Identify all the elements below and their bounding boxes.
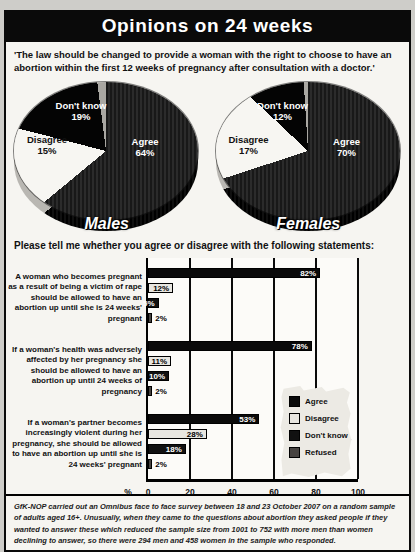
bar-agree: 82% xyxy=(148,268,320,278)
legend-item-disagree: Disagree xyxy=(289,413,352,424)
legend-item-agree: Agree xyxy=(289,396,352,407)
bar-value-label: 5% xyxy=(143,299,155,308)
bar-chart-plot: Agree Disagree Don't know Refused 82%12%… xyxy=(146,258,358,482)
gridline xyxy=(357,258,359,479)
x-axis-unit-label: % xyxy=(118,487,138,497)
bar-value-label: 53% xyxy=(239,415,255,424)
tick-label: 0 xyxy=(138,487,158,497)
legend-label: Agree xyxy=(305,397,328,406)
legend-swatch-refused xyxy=(289,447,300,458)
pie-title-males: Males xyxy=(6,215,208,233)
males-pie-chart: Don't know19% Disagree15% Agree64% Males xyxy=(6,78,208,235)
bar-value-label: 10% xyxy=(149,372,165,381)
legend-swatch-dont-know xyxy=(289,430,300,441)
pie-title-females: Females xyxy=(208,215,410,233)
gridline xyxy=(231,258,233,479)
statements-heading: Please tell me whether you agree or disa… xyxy=(6,235,409,254)
statement-label: If a woman's partner becomes increasingl… xyxy=(8,418,142,470)
pie-charts-section: Don't know19% Disagree15% Agree64% Males… xyxy=(6,78,409,235)
bar-refused: 2% xyxy=(148,386,152,396)
tick-label: 40 xyxy=(222,487,242,497)
bar-disagree: 28% xyxy=(148,429,207,439)
pie-slice-label-dont-know: Don't know19% xyxy=(36,100,126,124)
survey-methodology-footnote: GfK-NOP carried out an Omnibus face to f… xyxy=(6,494,409,550)
chart-legend: Agree Disagree Don't know Refused xyxy=(280,386,352,478)
tick-label: 100 xyxy=(348,487,368,497)
bar-refused: 2% xyxy=(148,459,152,469)
gridline xyxy=(273,258,275,479)
bar-value-label: 2% xyxy=(155,460,167,469)
legend-label: Disagree xyxy=(305,414,339,423)
tick-label: 20 xyxy=(180,487,200,497)
survey-panel: Opinions on 24 weeks 'The law should be … xyxy=(4,10,411,552)
bar-don-t-know: 5% xyxy=(148,298,159,308)
pie-slice-label-disagree: Disagree17% xyxy=(218,134,280,158)
legend-label: Don't know xyxy=(305,431,348,440)
pie-slice-label-disagree: Disagree15% xyxy=(16,134,78,158)
statement-label: A woman who becomes pregnant as a result… xyxy=(8,272,142,324)
bar-don-t-know: 18% xyxy=(148,444,186,454)
agreement-bar-chart: Agree Disagree Don't know Refused 82%12%… xyxy=(6,254,409,494)
bar-value-label: 28% xyxy=(187,430,203,439)
bar-value-label: 78% xyxy=(292,342,308,351)
page-title: Opinions on 24 weeks xyxy=(6,12,409,42)
bar-value-label: 82% xyxy=(300,269,316,278)
bar-value-label: 12% xyxy=(153,284,169,293)
bar-value-label: 2% xyxy=(155,314,167,323)
pie-slice-label-dont-know: Don't know12% xyxy=(238,100,328,124)
bar-agree: 78% xyxy=(148,341,312,351)
legend-swatch-agree xyxy=(289,396,300,407)
legend-item-refused: Refused xyxy=(289,447,352,458)
bar-value-label: 2% xyxy=(155,387,167,396)
pie-slice-label-agree: Agree64% xyxy=(110,136,180,160)
bar-value-label: 11% xyxy=(152,357,168,366)
bar-disagree: 12% xyxy=(148,283,173,293)
tick-label: 60 xyxy=(264,487,284,497)
pie-slice-label-agree: Agree70% xyxy=(312,136,382,160)
legend-label: Refused xyxy=(305,448,337,457)
bar-agree: 53% xyxy=(148,414,259,424)
tick-label: 80 xyxy=(306,487,326,497)
gridline xyxy=(189,258,191,479)
bar-refused: 2% xyxy=(148,313,152,323)
x-axis-labels: % 020406080100 xyxy=(6,487,409,500)
bar-value-label: 18% xyxy=(166,445,182,454)
bar-disagree: 11% xyxy=(148,356,171,366)
statement-label: If a woman's health was adversely affect… xyxy=(8,345,142,397)
females-pie-chart: Don't know12% Disagree17% Agree70% Femal… xyxy=(208,78,410,235)
bar-don-t-know: 10% xyxy=(148,371,169,381)
survey-question-quote: 'The law should be changed to provide a … xyxy=(6,42,409,78)
legend-swatch-disagree xyxy=(289,413,300,424)
legend-item-dont-know: Don't know xyxy=(289,430,352,441)
